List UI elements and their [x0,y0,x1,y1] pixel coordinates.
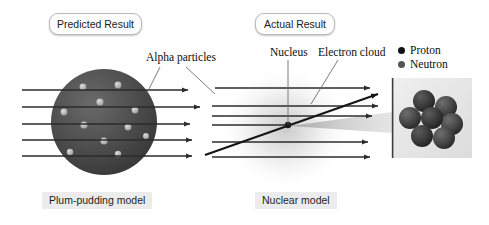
nucleon-neutron [399,107,421,129]
plum-pudding-group [22,69,200,175]
leader-alpha-right [186,67,215,94]
nuclear-model-group [205,66,392,190]
label-alpha-particles: Alpha particles [146,51,216,63]
legend: Proton Neutron [398,43,448,71]
electron-dot [61,109,68,116]
electron-dot [100,137,107,144]
callout-actual-result[interactable]: Actual Result [255,13,335,35]
caption-plum-pudding-model: Plum-pudding model [42,192,152,209]
legend-label-neutron: Neutron [410,58,448,70]
callout-predicted-result[interactable]: Predicted Result [49,13,142,35]
atomic-model-diagram: Predicted Result Actual Result Alpha par… [0,0,489,225]
label-electron-cloud: Electron cloud [318,46,385,58]
caption-nuclear-model: Nuclear model [255,192,337,209]
plum-pudding-sphere [51,69,157,175]
legend-item-neutron: Neutron [398,57,448,71]
proton-dot-icon [398,47,405,54]
nucleon-proton [411,125,433,147]
legend-label-proton: Proton [410,44,441,56]
label-nucleus: Nucleus [270,46,308,58]
nucleus-inset [392,78,472,158]
electron-dot [67,149,73,155]
legend-item-proton: Proton [398,43,448,57]
leader-alpha-left [147,67,160,93]
electron-dot [96,98,103,105]
nucleon-neutron [433,127,455,149]
neutron-dot-icon [398,61,405,68]
electron-dot [115,82,122,89]
electron-dot [143,133,149,139]
electron-dot [80,121,87,128]
